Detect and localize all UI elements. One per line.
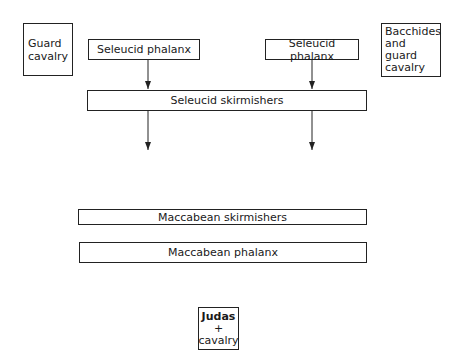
cavalry-label: cavalry — [198, 335, 238, 347]
maccabean-phalanx-label: Maccabean phalanx — [168, 246, 278, 259]
guard-cavalry-label: Guard cavalry — [28, 37, 68, 63]
seleucid-phalanx-right-label: Seleucid phalanx — [266, 37, 358, 63]
arrow-right-phalanx-to-skirmishers — [309, 59, 315, 89]
judas-label: Judas — [202, 311, 236, 323]
seleucid-skirmishers-box: Seleucid skirmishers — [87, 90, 367, 111]
arrow-left-skirmishers-advance — [145, 110, 151, 150]
plus-label: + — [214, 323, 223, 335]
judas-cavalry-box: Judas + cavalry — [198, 307, 239, 350]
bacchides-label: Bacchides and guard cavalry — [385, 26, 435, 74]
guard-cavalry-box: Guard cavalry — [23, 23, 73, 76]
seleucid-skirmishers-label: Seleucid skirmishers — [170, 94, 283, 107]
arrow-right-skirmishers-advance — [309, 110, 315, 150]
arrow-left-phalanx-to-skirmishers — [145, 59, 151, 89]
maccabean-phalanx-box: Maccabean phalanx — [79, 242, 367, 263]
maccabean-skirmishers-box: Maccabean skirmishers — [78, 209, 367, 225]
maccabean-skirmishers-label: Maccabean skirmishers — [158, 211, 287, 224]
seleucid-phalanx-left-label: Seleucid phalanx — [97, 43, 191, 56]
seleucid-phalanx-left-box: Seleucid phalanx — [88, 39, 200, 60]
bacchides-guard-cavalry-box: Bacchides and guard cavalry — [381, 23, 441, 77]
seleucid-phalanx-right-box: Seleucid phalanx — [265, 39, 359, 60]
